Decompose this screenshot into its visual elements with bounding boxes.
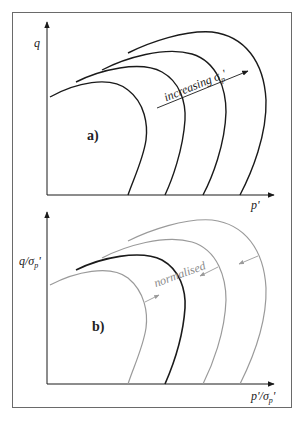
y-label-text: q/σ: [19, 254, 34, 268]
panel-a-x-label: p': [251, 198, 260, 213]
panel-b-yield-curves: [50, 220, 266, 384]
panel-a-y-label: q: [34, 36, 40, 51]
x-label-text: p'/σ: [251, 389, 269, 403]
panel-a-axes: [47, 22, 274, 195]
y-label-prime: ': [38, 254, 41, 268]
panel-b-y-label: q/σp': [19, 254, 41, 270]
panel-b-tag: b): [92, 319, 104, 335]
panel-a-tag: a): [87, 128, 99, 144]
panel-a-yield-curves: [50, 32, 266, 195]
normalise-arrow-inward-2: [239, 256, 258, 264]
x-label-prime: ': [273, 389, 276, 403]
panel-b-x-label: p'/σp': [251, 389, 275, 405]
diagram-canvas: [0, 0, 306, 421]
normalise-arrow-outward: [145, 295, 159, 302]
panel-b-axes: [47, 212, 274, 384]
